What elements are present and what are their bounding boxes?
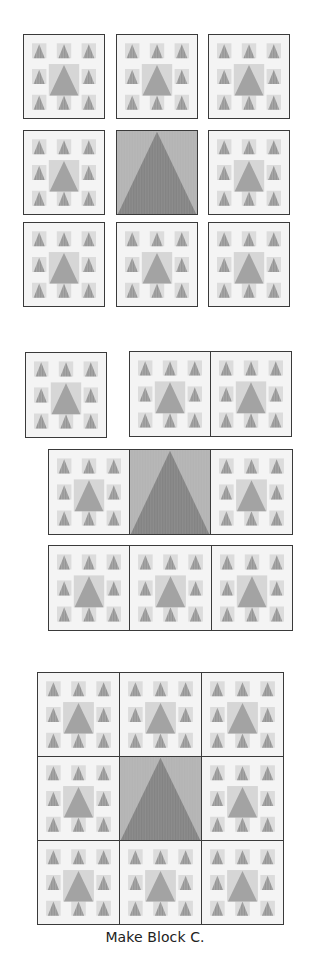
- block-light: [201, 756, 284, 841]
- triangle-units-icon: [120, 841, 201, 924]
- block-light: [119, 840, 202, 925]
- block-light: [201, 672, 284, 757]
- block-light: [48, 449, 130, 535]
- block-light: [210, 351, 292, 437]
- triangle-units-icon: [38, 841, 119, 924]
- triangle-units-icon: [209, 35, 289, 118]
- triangle-units-icon: [202, 841, 283, 924]
- triangle-units-icon: [211, 352, 291, 436]
- block-dark-center: [129, 449, 211, 535]
- block-light: [48, 545, 130, 631]
- triangle-units-icon: [209, 223, 289, 306]
- cropped-heading-text: [14, 0, 124, 4]
- block-light: [25, 352, 107, 438]
- large-triangle-icon: [130, 450, 210, 534]
- block-light: [116, 222, 198, 307]
- triangle-units-icon: [26, 353, 106, 437]
- triangle-units-icon: [49, 546, 129, 630]
- triangle-units-icon: [24, 35, 104, 118]
- large-triangle-icon: [117, 131, 197, 214]
- triangle-units-icon: [117, 223, 197, 306]
- triangle-units-icon: [38, 757, 119, 840]
- triangle-units-icon: [49, 450, 129, 534]
- block-light: [37, 840, 120, 925]
- block-light: [116, 34, 198, 119]
- triangle-units-icon: [130, 352, 210, 436]
- triangle-units-icon: [24, 223, 104, 306]
- block-light: [23, 34, 105, 119]
- triangle-units-icon: [38, 673, 119, 756]
- block-light: [23, 130, 105, 215]
- triangle-units-icon: [24, 131, 104, 214]
- large-triangle-icon: [120, 757, 201, 840]
- triangle-units-icon: [130, 546, 211, 630]
- block-light: [211, 545, 293, 631]
- block-dark-center: [116, 130, 198, 215]
- block-light: [37, 756, 120, 841]
- block-light: [37, 672, 120, 757]
- block-light: [201, 840, 284, 925]
- block-dark-center: [119, 756, 202, 841]
- block-light: [208, 130, 290, 215]
- triangle-units-icon: [212, 546, 292, 630]
- triangle-units-icon: [211, 450, 292, 534]
- block-light: [210, 449, 293, 535]
- triangle-units-icon: [202, 757, 283, 840]
- triangle-units-icon: [117, 35, 197, 118]
- triangle-units-icon: [120, 673, 201, 756]
- block-light: [208, 34, 290, 119]
- block-light: [208, 222, 290, 307]
- figure-caption: Make Block C.: [0, 929, 310, 945]
- block-light: [119, 672, 202, 757]
- triangle-units-icon: [209, 131, 289, 214]
- triangle-units-icon: [202, 673, 283, 756]
- quilt-assembly-diagram: Make Block C.: [0, 0, 310, 954]
- block-light: [129, 545, 212, 631]
- block-light: [23, 222, 105, 307]
- block-light: [129, 351, 211, 437]
